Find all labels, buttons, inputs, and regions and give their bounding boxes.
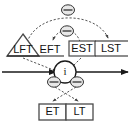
eft-node[interactable]: EFT (40, 43, 61, 55)
activity-time-diagram: LFT EFT EST LST i (0, 0, 131, 125)
minus-operator-inner-arc[interactable] (61, 26, 74, 36)
lst-label: LST (101, 42, 121, 54)
left-minus-to-lt-connector (55, 87, 78, 101)
est-box-node[interactable]: EST (69, 41, 95, 56)
et-label: ET (45, 105, 59, 117)
right-minus-to-et-connector (53, 87, 76, 101)
minus-operator-right-of-activity[interactable] (71, 77, 84, 87)
lft-to-activity-connector (23, 58, 56, 71)
lt-label: LT (73, 105, 85, 117)
minus-operator-left-of-activity[interactable] (48, 77, 61, 87)
result-cells-group[interactable]: ET LT (39, 104, 93, 120)
lft-label: LFT (13, 43, 33, 55)
minus-operator-outer-arc[interactable] (62, 5, 75, 15)
lst-node[interactable]: LST (95, 41, 128, 56)
eft-label: EFT (40, 43, 61, 55)
diagram-canvas: LFT EFT EST LST i (0, 0, 131, 125)
est-label: EST (71, 42, 93, 54)
activity-to-cells-group (53, 87, 78, 101)
activity-label: i (63, 65, 66, 77)
lft-to-activity-group (23, 58, 56, 71)
